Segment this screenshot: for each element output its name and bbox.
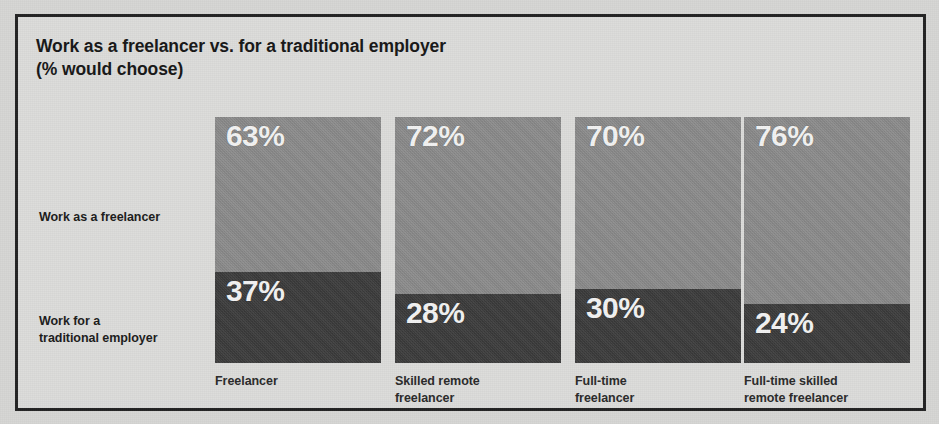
bar-segment-freelancer-top: 63% bbox=[215, 117, 381, 272]
chart-title: Work as a freelancer vs. for a tradition… bbox=[36, 35, 676, 81]
series-label-work-as-freelancer: Work as a freelancer bbox=[39, 209, 209, 226]
bar-value-label: 28% bbox=[406, 298, 464, 328]
stacked-bar-skilled-remote-freelancer[interactable]: 72% 28% bbox=[395, 117, 561, 363]
bar-segment-freelancer-bottom: 37% bbox=[215, 272, 381, 363]
series-label-work-for-traditional-employer: Work for a traditional employer bbox=[39, 313, 209, 347]
bar-segment-skilled-remote-top: 72% bbox=[395, 117, 561, 294]
bar-value-label: 37% bbox=[226, 276, 284, 306]
stacked-bar-full-time-freelancer[interactable]: 70% 30% bbox=[575, 117, 741, 363]
bar-value-label: 24% bbox=[755, 308, 813, 338]
chart-screenshot: Work as a freelancer vs. for a tradition… bbox=[0, 0, 939, 424]
bar-value-label: 63% bbox=[226, 121, 284, 151]
category-label-skilled-remote-freelancer: Skilled remote freelancer bbox=[395, 373, 570, 407]
category-label-full-time-freelancer: Full-time freelancer bbox=[575, 373, 750, 407]
bar-value-label: 72% bbox=[406, 121, 464, 151]
stacked-bar-full-time-skilled-remote-freelancer[interactable]: 76% 24% bbox=[744, 117, 910, 363]
category-label-freelancer: Freelancer bbox=[215, 373, 390, 390]
bar-segment-full-time-skilled-remote-top: 76% bbox=[744, 117, 910, 304]
bar-value-label: 30% bbox=[586, 293, 644, 323]
chart-frame: Work as a freelancer vs. for a tradition… bbox=[15, 14, 926, 411]
category-label-full-time-skilled-remote-freelancer: Full-time skilled remote freelancer bbox=[744, 373, 919, 407]
bar-segment-full-time-top: 70% bbox=[575, 117, 741, 289]
bar-value-label: 76% bbox=[755, 121, 813, 151]
chart-plot-area: 63% 37% 72% 28% 70% bbox=[215, 117, 909, 407]
bar-segment-full-time-bottom: 30% bbox=[575, 289, 741, 363]
bar-value-label: 70% bbox=[586, 121, 644, 151]
bar-segment-full-time-skilled-remote-bottom: 24% bbox=[744, 304, 910, 363]
stacked-bar-freelancer[interactable]: 63% 37% bbox=[215, 117, 381, 363]
bar-segment-skilled-remote-bottom: 28% bbox=[395, 294, 561, 363]
